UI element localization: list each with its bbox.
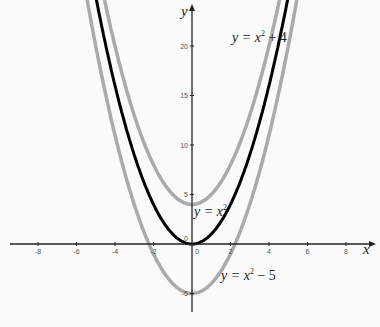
x-tick-label: 4 [267, 248, 271, 255]
y-tick-label: 10 [180, 142, 188, 149]
y-tick-label: -5 [182, 290, 188, 297]
y-axis-arrow-icon [189, 4, 195, 11]
y-tick-label: 5 [184, 191, 188, 198]
axes [10, 4, 376, 312]
x-tick-label: -2 [150, 248, 156, 255]
chart-canvas: -8-6-4-202468-505101520 x y y = x2 + 4 y… [0, 0, 380, 327]
x-tick-label: -6 [73, 248, 79, 255]
equation-label-top: y = x2 + 4 [230, 29, 287, 45]
parabola-chart: -8-6-4-202468-505101520 x y y = x2 + 4 y… [0, 0, 380, 327]
y-tick-label: 15 [180, 92, 188, 99]
y-tick-label: 0 [184, 235, 188, 242]
x-axis-label: x [362, 241, 370, 257]
equation-label-mid: y = x2 [192, 203, 227, 219]
x-axis-arrow-icon [369, 241, 376, 247]
x-tick-label: 8 [344, 248, 348, 255]
x-tick-label: -8 [35, 248, 41, 255]
y-tick-label: 20 [180, 43, 188, 50]
x-tick-label: -4 [112, 248, 118, 255]
x-tick-label: 6 [306, 248, 310, 255]
equation-label-bottom: y = x2 − 5 [219, 267, 276, 283]
y-axis-label: y [179, 3, 188, 19]
x-tick-label: 0 [195, 248, 199, 255]
x-tick-label: 2 [229, 248, 233, 255]
